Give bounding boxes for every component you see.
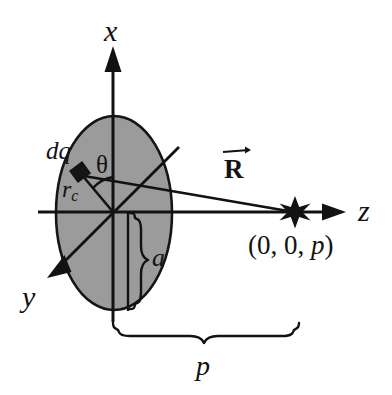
z-axis-arrowhead: [322, 204, 346, 221]
field-point-suffix: ): [325, 230, 334, 260]
radius-rc-label: rc: [62, 177, 78, 204]
distance-p-label: p: [196, 352, 210, 380]
vector-R-overbar-icon: [223, 147, 251, 154]
radius-rc-subscript: c: [71, 187, 78, 204]
physics-diagram: x y z dq θ rc a R p (0, 0, p): [0, 0, 392, 395]
field-point-coordinates-label: (0, 0, p): [248, 232, 334, 259]
y-axis-label: y: [22, 282, 35, 312]
charge-element-label: dq: [46, 138, 71, 163]
disk-radius-label: a: [152, 245, 165, 271]
field-point-variable: p: [311, 230, 325, 260]
radius-rc-symbol: r: [62, 176, 71, 202]
diagram-canvas: [0, 0, 392, 395]
brace-p: [113, 323, 299, 343]
field-point-prefix: (0, 0,: [248, 230, 311, 260]
x-axis-arrowhead: [105, 46, 122, 72]
vector-R-label: R: [224, 156, 244, 183]
theta-angle-label: θ: [96, 152, 108, 177]
z-axis-label: z: [358, 196, 370, 226]
x-axis-label: x: [104, 16, 117, 46]
